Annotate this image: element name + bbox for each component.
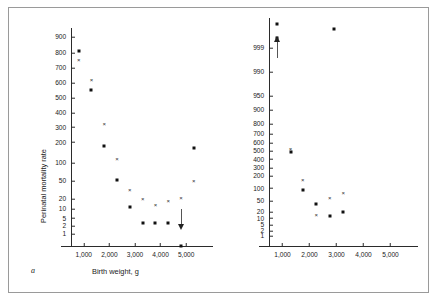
y-tick-b-950: 950 — [253, 93, 269, 100]
y-axis-label-a: Perinatal mortality rate — [39, 149, 48, 223]
data-point-cross: × — [154, 202, 158, 208]
panel-letter-a: a — [31, 266, 35, 275]
data-point-dot — [128, 205, 131, 208]
y-tick-a-200: 200 — [55, 139, 71, 146]
data-point-cross: × — [90, 77, 94, 83]
x-tick-a-4000: 4,000 — [152, 247, 169, 259]
data-point-dot — [342, 211, 345, 214]
plot-area-b: 999 990 950 900 800 700 600 500 400 300 … — [269, 18, 404, 247]
data-point-dot — [276, 22, 279, 25]
plot-area-a: 900 800 700 600 500 400 300 200 100 50 2… — [71, 28, 199, 247]
y-tick-a-500: 500 — [55, 95, 71, 102]
x-tick-a-3000: 3,000 — [127, 247, 144, 259]
y-tick-a-2: 2 — [62, 223, 71, 230]
figure-frame: 900 800 700 600 500 400 300 200 100 50 2… — [8, 7, 429, 293]
y-tick-a-400: 400 — [55, 109, 71, 116]
panel-a: 900 800 700 600 500 400 300 200 100 50 2… — [9, 8, 221, 292]
y-tick-b-400: 400 — [253, 156, 269, 163]
x-tick-b-3000: 3,000 — [328, 247, 345, 259]
x-tick-b-5000: 5,000 — [382, 247, 399, 259]
x-tick-a-5000: 5,000 — [178, 247, 195, 259]
y-tick-a-1: 1 — [62, 231, 71, 238]
y-axis-a — [71, 28, 72, 247]
data-point-dot-censored — [180, 244, 183, 247]
data-point-cross: × — [341, 190, 345, 196]
y-axis-b — [269, 18, 270, 247]
y-tick-b-700: 700 — [253, 131, 269, 138]
y-tick-b-999: 999 — [253, 45, 269, 52]
x-tick-b-1000: 1,000 — [274, 247, 291, 259]
x-tick-b-2000: 2,000 — [301, 247, 318, 259]
panel-b: 999 990 950 900 800 700 600 500 400 300 … — [221, 8, 430, 292]
y-tick-b-1: 1 — [260, 233, 269, 240]
data-point-cross: × — [167, 198, 171, 204]
y-tick-a-900: 900 — [55, 33, 71, 40]
y-tick-b-300: 300 — [253, 164, 269, 171]
y-tick-a-600: 600 — [55, 80, 71, 87]
data-point-cross: × — [103, 121, 107, 127]
data-point-dot — [332, 28, 335, 31]
y-tick-a-10: 10 — [59, 206, 71, 213]
y-tick-b-100: 100 — [253, 185, 269, 192]
data-point-dot — [289, 150, 292, 153]
y-tick-b-800: 800 — [253, 121, 269, 128]
data-point-dot — [103, 144, 106, 147]
y-tick-a-50: 50 — [59, 178, 71, 185]
y-tick-b-990: 990 — [253, 69, 269, 76]
data-point-cross: × — [192, 178, 196, 184]
data-point-dot — [328, 214, 331, 217]
y-tick-b-900: 900 — [253, 107, 269, 114]
x-tick-b-4000: 4,000 — [355, 247, 372, 259]
data-point-cross: × — [314, 212, 318, 218]
y-tick-a-100: 100 — [55, 160, 71, 167]
data-point-dot — [77, 49, 80, 52]
y-tick-a-700: 700 — [55, 65, 71, 72]
x-axis-label-a: Birth weight, g — [92, 267, 139, 276]
data-point-dot — [116, 179, 119, 182]
y-tick-b-500: 500 — [253, 148, 269, 155]
data-point-dot — [167, 221, 170, 224]
data-point-dot — [315, 203, 318, 206]
data-point-cross: × — [128, 187, 132, 193]
y-tick-b-600: 600 — [253, 140, 269, 147]
y-tick-b-50: 50 — [257, 197, 269, 204]
y-tick-a-800: 800 — [55, 50, 71, 57]
data-point-dot — [301, 189, 304, 192]
data-point-dot — [154, 221, 157, 224]
y-tick-a-300: 300 — [55, 124, 71, 131]
data-point-cross: × — [141, 196, 145, 202]
data-point-cross: × — [115, 156, 119, 162]
data-point-cross: × — [77, 57, 81, 63]
y-tick-b-200: 200 — [253, 173, 269, 180]
data-point-cross: × — [179, 195, 183, 201]
x-tick-a-1000: 1,000 — [76, 247, 93, 259]
y-tick-a-5: 5 — [62, 215, 71, 222]
data-point-dot — [90, 89, 93, 92]
data-point-dot — [141, 221, 144, 224]
x-tick-a-2000: 2,000 — [101, 247, 118, 259]
data-point-cross: × — [328, 195, 332, 201]
data-point-cross: × — [301, 177, 305, 183]
data-point-dot — [192, 147, 195, 150]
y-tick-a-20: 20 — [59, 196, 71, 203]
